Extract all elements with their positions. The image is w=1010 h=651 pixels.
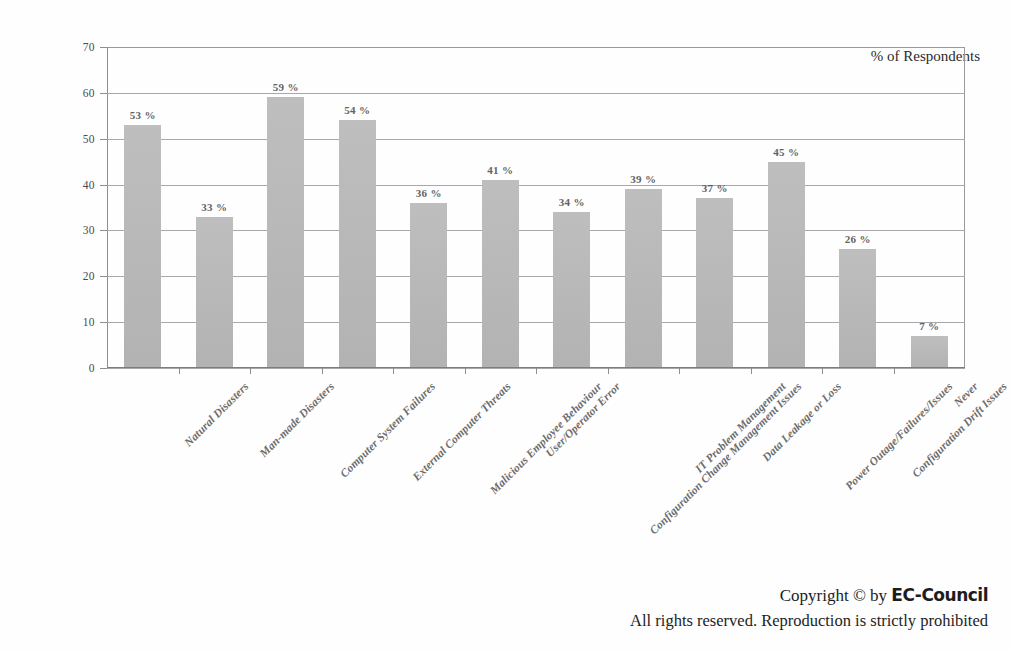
bar-value-label: 34 % (559, 196, 585, 208)
plot-area: 010203040506070 53 %33 %59 %54 %36 %41 %… (107, 47, 965, 368)
gridline (107, 185, 965, 186)
x-axis-tick (465, 368, 466, 374)
bar-value-label: 36 % (416, 187, 442, 199)
bar (410, 203, 447, 368)
x-axis-line (107, 367, 965, 368)
bar-value-label: 39 % (630, 173, 656, 185)
rights-line: All rights reserved. Reproduction is str… (630, 609, 988, 633)
y-axis-tick-label: 0 (89, 362, 95, 374)
y-axis-tick-label: 10 (83, 316, 95, 328)
y-axis-tick-label: 40 (83, 179, 95, 191)
chart-page: % of Respondents 010203040506070 53 %33 … (0, 0, 1010, 651)
gridline (107, 322, 965, 323)
plot-frame (107, 47, 965, 368)
x-axis-tick (536, 368, 537, 374)
y-axis-tick (100, 230, 107, 231)
bar (768, 162, 805, 368)
y-axis-tick-label: 30 (83, 224, 95, 236)
y-axis-tick (100, 368, 107, 369)
bar-value-label: 45 % (773, 146, 799, 158)
bar-value-label: 54 % (344, 104, 370, 116)
gridline (107, 93, 965, 94)
x-axis-tick (894, 368, 895, 374)
bar (339, 120, 376, 368)
bar-value-label: 37 % (702, 182, 728, 194)
category-label: Man-made Disasters (258, 380, 337, 459)
y-axis-tick (100, 139, 107, 140)
category-label: IT Problem Management (693, 380, 788, 475)
bar (553, 212, 590, 368)
y-axis-tick-label: 60 (83, 87, 95, 99)
x-axis-tick (250, 368, 251, 374)
copyright-line: Copyright © by EC-Council (630, 583, 988, 609)
x-axis-tick (608, 368, 609, 374)
bar (482, 180, 519, 368)
bar-value-label: 26 % (845, 233, 871, 245)
gridline (107, 230, 965, 231)
x-axis-tick (751, 368, 752, 374)
copyright-text: Copyright © by (780, 586, 892, 605)
category-label: Malicious Employee Behaviour (487, 380, 603, 496)
bar (839, 249, 876, 368)
brand-name: EC-Council (891, 585, 988, 605)
bar (267, 97, 304, 368)
y-axis-tick (100, 185, 107, 186)
y-axis-tick-label: 70 (83, 41, 95, 53)
footer: Copyright © by EC-Council All rights res… (630, 583, 988, 633)
bar-value-label: 7 % (919, 320, 939, 332)
y-axis-tick (100, 47, 107, 48)
bar (196, 217, 233, 368)
x-axis-tick (179, 368, 180, 374)
gridline (107, 276, 965, 277)
category-label: Natural Disasters (182, 380, 251, 449)
y-axis-tick (100, 322, 107, 323)
category-label: Power Outage/Failures/Issues (843, 380, 955, 492)
category-label: Configuration Change Management Issues (647, 380, 803, 536)
bar-value-label: 59 % (273, 81, 299, 93)
y-axis-tick (100, 276, 107, 277)
gridline (107, 139, 965, 140)
x-axis-tick (679, 368, 680, 374)
x-axis-tick (393, 368, 394, 374)
bar (625, 189, 662, 368)
y-axis-tick (100, 93, 107, 94)
bar-value-label: 53 % (130, 109, 156, 121)
bar (911, 336, 948, 368)
y-axis-tick-label: 50 (83, 133, 95, 145)
bar-value-label: 41 % (487, 164, 513, 176)
x-axis-tick (322, 368, 323, 374)
bar-value-label: 33 % (201, 201, 227, 213)
bar (124, 125, 161, 368)
x-axis-tick (822, 368, 823, 374)
bar (696, 198, 733, 368)
y-axis-tick-label: 20 (83, 270, 95, 282)
